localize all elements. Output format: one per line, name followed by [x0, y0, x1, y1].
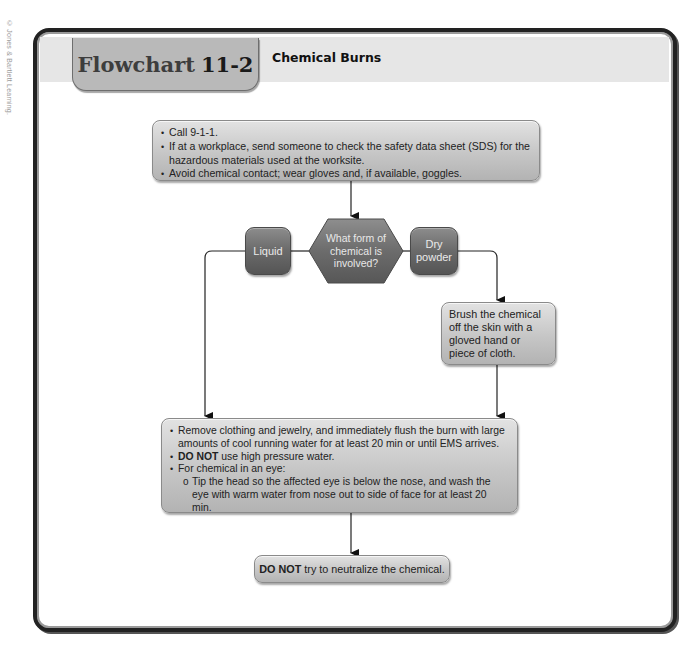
initial-steps-box: Call 9-1-1. If at a workplace, send some… — [152, 120, 540, 181]
flush-step-eye: For chemical in an eye: — [170, 463, 509, 476]
step-check-sds: If at a workplace, send someone to check… — [161, 140, 531, 167]
flush-step-no-pressure: DO NOT use high pressure water. — [170, 451, 509, 464]
final-warning-box: DO NOT try to neutralize the chemical. — [254, 555, 450, 583]
step-call-911: Call 9-1-1. — [161, 126, 531, 140]
warning-do-not: DO NOT — [178, 451, 218, 462]
brush-text: Brush the chemical off the skin with a g… — [449, 308, 541, 359]
liquid-label: Liquid — [253, 245, 282, 258]
decision-question: What form of chemical is involved? — [308, 218, 404, 284]
arrow-liquid-branch — [205, 251, 245, 416]
flush-step-no-pressure-text: use high pressure water. — [218, 451, 334, 462]
final-do-not: DO NOT — [259, 563, 301, 575]
brush-chemical-box: Brush the chemical off the skin with a g… — [441, 302, 556, 365]
final-rest: try to neutralize the chemical. — [301, 563, 444, 575]
flush-step-remove: Remove clothing and jewelry, and immedia… — [170, 425, 509, 451]
final-warning-text: DO NOT try to neutralize the chemical. — [259, 563, 444, 576]
liquid-option: Liquid — [245, 227, 291, 275]
dry-powder-option: Dry powder — [410, 227, 458, 275]
step-avoid-contact: Avoid chemical contact; wear gloves and,… — [161, 167, 531, 181]
flush-substep-eye-wash: Tip the head so the affected eye is belo… — [170, 476, 509, 514]
decision-hexagon: What form of chemical is involved? — [308, 218, 404, 284]
flush-burn-box: Remove clothing and jewelry, and immedia… — [161, 418, 518, 513]
dry-powder-label: Dry powder — [415, 238, 453, 264]
arrow-dry-branch — [458, 251, 497, 300]
